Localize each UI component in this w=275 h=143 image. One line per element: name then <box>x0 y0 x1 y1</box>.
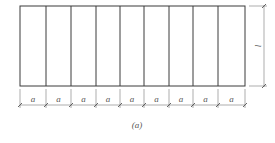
panel-dividers <box>46 6 218 86</box>
dimension-label: a <box>203 94 208 104</box>
dimension-label: a <box>81 94 86 104</box>
dimension-label: a <box>130 94 135 104</box>
dimension-label: a <box>179 94 184 104</box>
dimension-label: a <box>229 94 234 104</box>
dimension-label: a <box>56 94 61 104</box>
dimension-label: a <box>31 94 36 104</box>
figure-caption: (a) <box>132 120 143 130</box>
dimension-label: a <box>154 94 159 104</box>
panel-diagram: a a a a a a a a a l (a) <box>0 0 275 143</box>
height-label: l <box>253 44 263 47</box>
panel-outline <box>20 6 245 86</box>
dimension-label: a <box>106 94 111 104</box>
